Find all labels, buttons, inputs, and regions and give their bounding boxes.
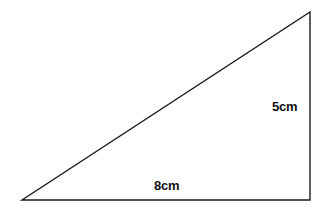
- diagram-canvas: 5cm 8cm: [0, 0, 328, 216]
- base-side-label: 8cm: [154, 179, 179, 192]
- vertical-side-label: 5cm: [272, 100, 297, 113]
- triangle-outline: [22, 12, 310, 200]
